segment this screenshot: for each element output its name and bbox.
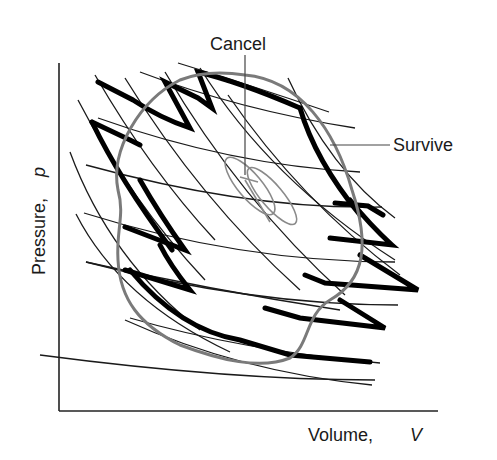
- y-axis-title: Pressure, p: [29, 167, 49, 275]
- y-axis-label: Pressure,: [29, 198, 49, 275]
- y-axis-symbol: p: [29, 167, 49, 178]
- x-axis-title: Volume, V: [308, 425, 424, 445]
- survive-label: Survive: [393, 135, 453, 155]
- x-axis-label: Volume,: [308, 425, 373, 445]
- cancel-loops: [218, 151, 304, 231]
- pv-diagram: Cancel Survive Volume, V Pressure, p: [0, 0, 497, 460]
- cancel-label: Cancel: [210, 34, 266, 54]
- isotherms: [84, 63, 398, 385]
- x-axis-symbol: V: [410, 425, 424, 445]
